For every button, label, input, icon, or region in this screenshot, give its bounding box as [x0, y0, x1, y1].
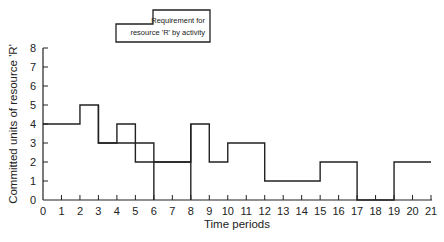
- x-tick-label: 1: [58, 205, 64, 217]
- x-tick-label: 10: [222, 205, 234, 217]
- y-tick-label: 4: [30, 118, 36, 130]
- axes: 012345678 012345678910111213141516171819…: [30, 42, 437, 217]
- legend: Requirement for resource 'R' by activity: [116, 10, 210, 42]
- x-tick-label: 15: [314, 205, 326, 217]
- x-tick-label: 14: [296, 205, 308, 217]
- x-tick-label: 21: [425, 205, 437, 217]
- x-tick-label: 6: [151, 205, 157, 217]
- x-tick-label: 20: [406, 205, 418, 217]
- step-trace: [98, 105, 431, 200]
- x-tick-label: 7: [169, 205, 175, 217]
- x-tick-label: 4: [114, 205, 120, 217]
- x-axis-title: Time periods: [204, 218, 270, 230]
- x-tick-label: 9: [206, 205, 212, 217]
- y-tick-label: 8: [30, 42, 36, 54]
- x-tick-label: 2: [77, 205, 83, 217]
- x-tick-label: 0: [40, 205, 46, 217]
- x-tick-label: 18: [369, 205, 381, 217]
- x-tick-label: 19: [388, 205, 400, 217]
- x-tick-label: 3: [95, 205, 101, 217]
- y-tick-label: 1: [30, 175, 36, 187]
- x-ticks: 0123456789101112131415161718192021: [40, 195, 437, 217]
- x-tick-label: 12: [259, 205, 271, 217]
- x-tick-label: 17: [351, 205, 363, 217]
- legend-line-2: resource 'R' by activity: [130, 28, 205, 37]
- x-tick-label: 13: [277, 205, 289, 217]
- y-tick-label: 5: [30, 99, 36, 111]
- legend-box-outline: [116, 10, 210, 42]
- legend-line-1: Requirement for: [151, 16, 205, 25]
- x-tick-label: 5: [132, 205, 138, 217]
- x-tick-label: 16: [332, 205, 344, 217]
- y-axis-title: Committed units of resource 'R': [7, 44, 19, 204]
- data-traces: [43, 105, 431, 200]
- x-tick-label: 11: [241, 205, 252, 217]
- y-tick-label: 7: [30, 61, 36, 73]
- y-tick-label: 6: [30, 80, 36, 92]
- y-tick-label: 0: [30, 194, 36, 206]
- x-tick-label: 8: [188, 205, 194, 217]
- resource-histogram-chart: Requirement for resource 'R' by activity…: [0, 0, 444, 242]
- y-tick-label: 3: [30, 137, 36, 149]
- y-tick-label: 2: [30, 156, 36, 168]
